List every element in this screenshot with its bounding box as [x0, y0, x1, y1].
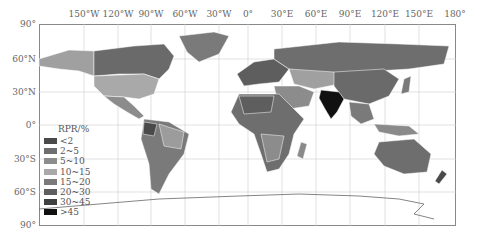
- y-tick: 60°N: [0, 54, 36, 64]
- x-tick: 120°E: [371, 9, 399, 19]
- legend-swatch: [44, 158, 57, 164]
- legend-item: <2: [44, 136, 90, 146]
- legend-label: 10~15: [60, 167, 90, 177]
- x-tick: 30°W: [206, 9, 231, 19]
- legend: RPR/% <2 2~5 5~10 10~15 15~20 20~30 30~4…: [44, 124, 90, 218]
- x-tick: 90°E: [339, 9, 362, 19]
- legend-label: 30~45: [60, 197, 90, 207]
- legend-item: 20~30: [44, 187, 90, 197]
- x-tick: 30°E: [271, 9, 294, 19]
- legend-swatch: [44, 138, 57, 144]
- x-tick: 120°W: [103, 9, 134, 19]
- legend-swatch: [44, 209, 57, 215]
- y-tick: 0°: [0, 120, 36, 130]
- legend-title: RPR/%: [58, 124, 90, 134]
- x-tick: 90°W: [138, 9, 163, 19]
- legend-label: <2: [60, 136, 73, 146]
- legend-label: 5~10: [60, 156, 85, 166]
- y-tick: 90°: [0, 220, 36, 230]
- world-map: [39, 24, 456, 226]
- x-tick: 180°: [444, 9, 466, 19]
- legend-item: 15~20: [44, 177, 90, 187]
- legend-swatch: [44, 148, 57, 154]
- legend-item: >45: [44, 207, 90, 217]
- legend-item: 10~15: [44, 167, 90, 177]
- legend-swatch: [44, 189, 57, 195]
- y-tick: 30°N: [0, 87, 36, 97]
- legend-label: 20~30: [60, 187, 90, 197]
- legend-item: 5~10: [44, 156, 90, 166]
- legend-item: 2~5: [44, 146, 90, 156]
- legend-label: 2~5: [60, 146, 79, 156]
- y-tick: 90°: [0, 19, 36, 29]
- y-tick: 30°S: [0, 154, 36, 164]
- x-tick: 60°E: [305, 9, 328, 19]
- x-tick: 0°: [243, 9, 253, 19]
- legend-label: >45: [60, 207, 79, 217]
- legend-label: 15~20: [60, 177, 90, 187]
- legend-swatch: [44, 169, 57, 175]
- x-tick: 150°W: [69, 9, 100, 19]
- legend-swatch: [44, 179, 57, 185]
- legend-item: 30~45: [44, 197, 90, 207]
- x-tick: 60°W: [172, 9, 197, 19]
- legend-swatch: [44, 199, 57, 205]
- y-tick: 60°S: [0, 187, 36, 197]
- x-tick: 150°E: [405, 9, 433, 19]
